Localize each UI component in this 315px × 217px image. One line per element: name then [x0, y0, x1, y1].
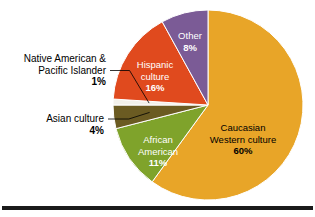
label-line: 1% [92, 76, 107, 87]
label-line: 11% [149, 157, 168, 168]
label-line: 8% [183, 41, 197, 52]
label-line: 16% [145, 82, 165, 93]
pie-slices [113, 10, 303, 200]
label-line: Native American & [24, 53, 107, 64]
slice-label-native-american: Native American &Pacific Islander1% [24, 53, 107, 87]
label-line: Caucasian [221, 122, 266, 133]
label-line: 4% [90, 125, 105, 136]
label-line: American [138, 145, 178, 156]
label-line: Hispanic [137, 59, 174, 70]
label-line: Western culture [210, 133, 276, 144]
label-line: culture [141, 70, 170, 81]
slice-label-asian: Asian culture4% [46, 113, 104, 136]
label-line: 60% [233, 145, 253, 156]
label-line: Other [178, 30, 202, 41]
pie-chart-svg: CaucasianWestern culture60%AfricanAmeric… [0, 0, 315, 217]
pie-chart-figure: CaucasianWestern culture60%AfricanAmeric… [0, 0, 315, 217]
label-line: Pacific Islander [38, 65, 106, 76]
label-line: Asian culture [46, 113, 104, 124]
label-line: African [143, 134, 173, 145]
bottom-rule [2, 206, 313, 210]
